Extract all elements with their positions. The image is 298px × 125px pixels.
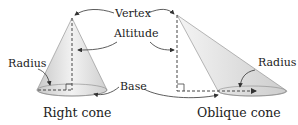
- base-label: Base: [120, 81, 147, 93]
- vertex-label: Vertex: [115, 8, 151, 20]
- radius-label-right: Radius: [258, 57, 296, 69]
- oblique-cone-caption: Oblique cone: [197, 105, 281, 120]
- radius-label-left: Radius: [8, 58, 46, 70]
- altitude-label: Altitude: [114, 28, 158, 40]
- right-cone: [37, 18, 107, 96]
- right-cone-caption: Right cone: [43, 105, 111, 120]
